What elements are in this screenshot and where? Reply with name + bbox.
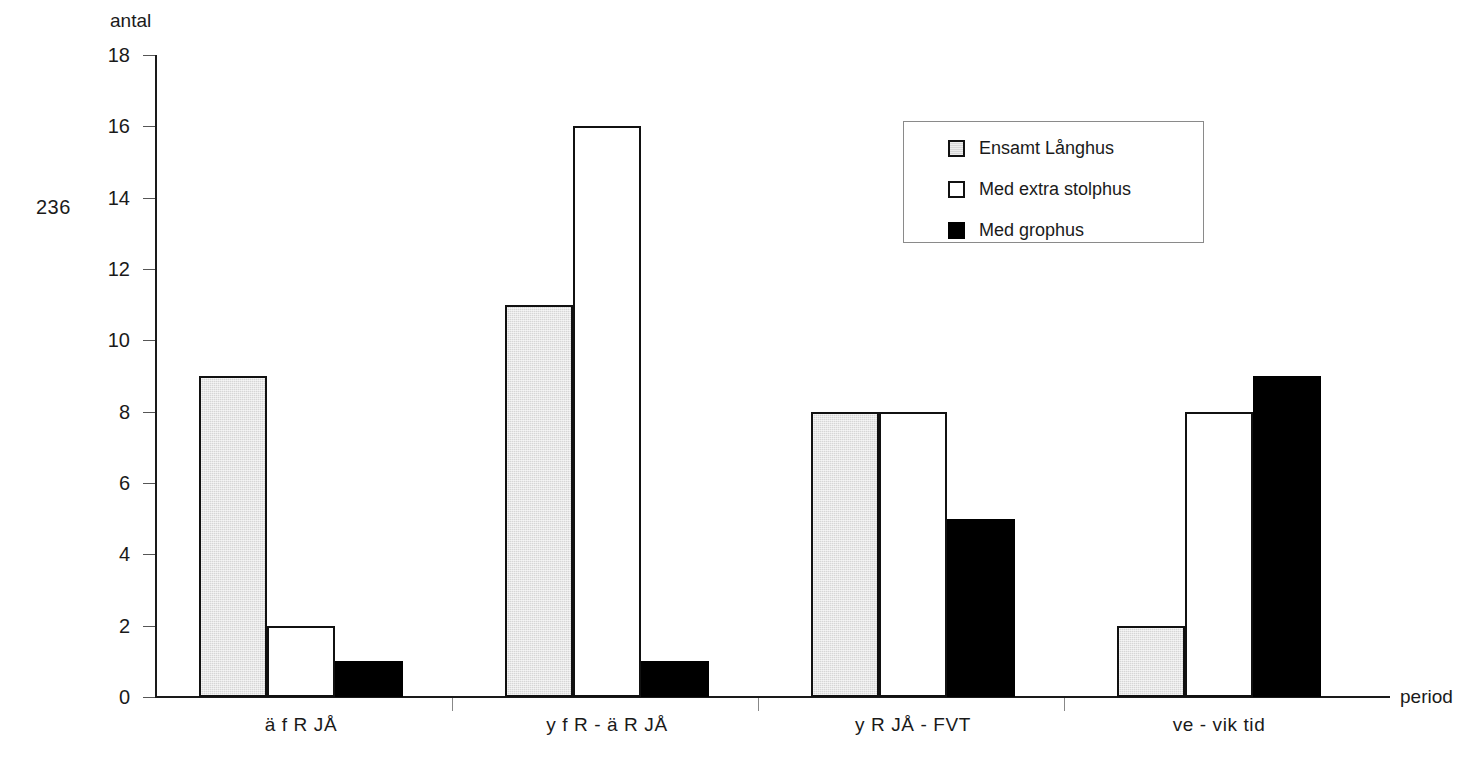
bar [573,126,641,697]
bar [1253,376,1321,697]
legend-item[interactable]: Ensamt Långhus [948,137,1114,159]
bar [947,519,1015,697]
bar [1117,626,1185,697]
x-axis-category-label: y R JÅ - FVT [763,714,1063,736]
bar [1185,412,1253,697]
x-axis-category-label: y f R - ä R JÅ [457,714,757,736]
bars-layer [0,0,1478,772]
legend-label: Ensamt Långhus [979,138,1114,159]
legend-item[interactable]: Med extra stolphus [948,178,1131,200]
bar [267,626,335,697]
bar [879,412,947,697]
legend: Ensamt Långhus Med extra stolphus Med gr… [903,121,1204,243]
legend-swatch-icon [948,222,965,239]
bar [811,412,879,697]
legend-item[interactable]: Med grophus [948,219,1084,241]
x-axis-category-label: ä f R JÅ [151,714,451,736]
bar [199,376,267,697]
legend-label: Med grophus [979,220,1084,241]
x-axis-divider-tick [452,698,453,711]
x-axis-category-label: ve - vik tid [1069,714,1369,736]
x-axis-divider-tick [758,698,759,711]
legend-swatch-icon [948,181,965,198]
bar-chart-figure: 236 antal period 024681012141618 ä f R J… [0,0,1478,772]
bar [505,305,573,697]
x-axis-divider-tick [1064,698,1065,711]
legend-swatch-icon [948,140,965,157]
legend-label: Med extra stolphus [979,179,1131,200]
bar [335,661,403,697]
bar [641,661,709,697]
